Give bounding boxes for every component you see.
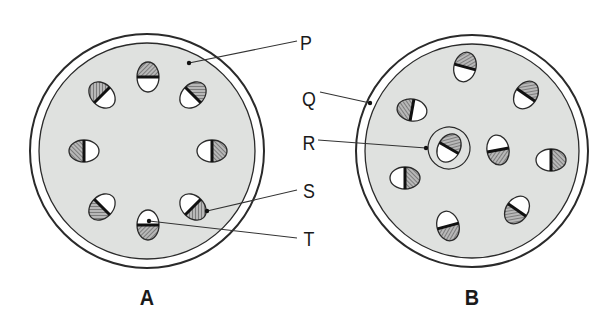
cross-section-b <box>356 35 588 267</box>
label-t: T <box>304 228 315 249</box>
caption-a: A <box>140 287 154 309</box>
leader-line-q <box>320 92 372 105</box>
label-p: P <box>300 32 312 53</box>
label-q: Q <box>302 88 316 109</box>
label-s: S <box>303 180 315 201</box>
label-r: R <box>303 132 316 153</box>
vascular-bundle <box>390 167 420 189</box>
vascular-bundle <box>137 62 159 92</box>
vascular-bundle <box>69 140 99 162</box>
vascular-bundle <box>137 210 159 240</box>
cross-section-a <box>30 34 264 268</box>
caption-b: B <box>465 287 479 309</box>
vascular-bundle <box>536 149 566 171</box>
vascular-bundle <box>197 140 227 162</box>
